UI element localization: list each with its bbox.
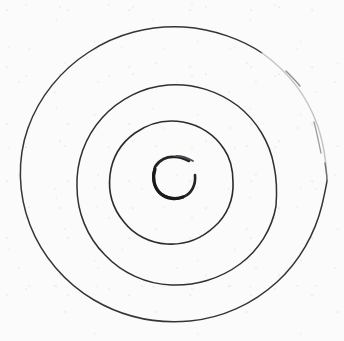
second-ring-stroke — [77, 85, 277, 285]
outer-ring-fleck-a — [286, 71, 300, 86]
outer-ring-faded-stroke — [262, 53, 327, 180]
spiral-drawing — [0, 0, 344, 341]
scanned-drawing-canvas — [0, 0, 344, 341]
outer-ring-stroke — [20, 27, 327, 322]
third-ring-stroke — [110, 121, 234, 244]
inner-ring-heavy-stroke — [154, 169, 183, 199]
